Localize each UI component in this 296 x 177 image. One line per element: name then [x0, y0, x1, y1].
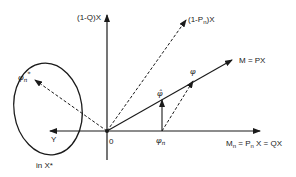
phi-n-label: φn [156, 136, 166, 146]
vertical-axis-label: (1-Q)X [77, 13, 102, 22]
phi-n-star-vector [35, 80, 107, 131]
phi-label: φ [190, 67, 196, 76]
complement-vector [107, 20, 186, 131]
origin-dot [105, 129, 109, 133]
complement-label: (1-Pn)X [188, 15, 215, 25]
y-label: Y [51, 135, 57, 144]
ellipse-label: in X* [36, 161, 53, 170]
m-vector [107, 60, 232, 131]
phi-n-star-label: φn* [18, 70, 30, 83]
m-vector-label: M = PX [239, 56, 266, 65]
origin-label: 0 [109, 137, 114, 146]
phi-hat-label: φ̂ [157, 89, 163, 98]
horizontal-axis-label: Mn = Pn X = QX [226, 139, 283, 149]
diagram-canvas: 0 (1-Q)X (1-Pn)X M = PX Mn = Pn X = QX Y… [0, 0, 296, 177]
phi-projection [162, 81, 193, 131]
